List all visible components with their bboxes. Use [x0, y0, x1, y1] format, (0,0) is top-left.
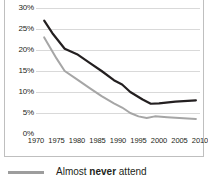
legend-label-emphasis: never — [89, 166, 116, 177]
y-tick-label: 5% — [6, 109, 34, 117]
y-tick-label: 25% — [6, 25, 34, 33]
x-tick-label: 2010 — [192, 136, 208, 145]
x-tick-label: 1970 — [28, 136, 44, 145]
x-tick-label: 1975 — [48, 136, 64, 145]
x-tick-label: 1980 — [69, 136, 85, 145]
x-tick-label: 1985 — [89, 136, 105, 145]
chart-legend: Almost never attend — [0, 162, 208, 182]
legend-swatch-gray — [8, 171, 44, 174]
y-tick-label: 15% — [6, 67, 34, 75]
legend-label: Almost never attend — [56, 166, 147, 178]
chart-svg — [36, 8, 200, 134]
y-tick-label: 10% — [6, 88, 34, 96]
series-line-dark-series — [44, 21, 196, 104]
x-tick-label: 2005 — [171, 136, 187, 145]
y-axis-tick-labels: 30%25%20%15%10%5%0% — [6, 0, 34, 135]
x-tick-label: 1990 — [110, 136, 126, 145]
x-tick-label: 2000 — [151, 136, 167, 145]
x-tick-label: 1995 — [130, 136, 146, 145]
gridlines — [36, 9, 200, 135]
y-tick-label: 20% — [6, 46, 34, 54]
legend-label-suffix: attend — [116, 166, 147, 177]
legend-label-prefix: Almost — [56, 166, 89, 177]
y-tick-label: 30% — [6, 4, 34, 12]
chart-figure: 30%25%20%15%10%5%0% 19701975198019851990… — [0, 0, 208, 182]
chart-plot-area — [36, 8, 200, 134]
data-lines — [44, 21, 196, 119]
x-axis-tick-labels: 197019751980198519901995200020052010 — [36, 136, 204, 148]
